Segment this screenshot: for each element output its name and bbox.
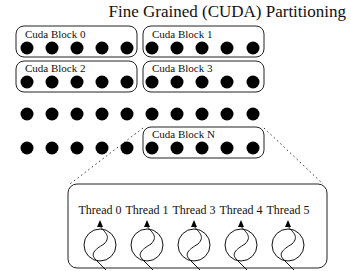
thread-wave-icon <box>281 226 295 270</box>
thread-label: Thread 3 <box>173 203 216 217</box>
block-label: Cuda Block 3 <box>152 62 213 74</box>
thread-dots <box>21 42 260 155</box>
arrow-up-icon <box>285 220 291 227</box>
arrow-up-icon <box>97 220 103 227</box>
cuda-partitioning-diagram: Fine Grained (CUDA) Partitioning Cuda Bl… <box>0 0 351 271</box>
thread-label: Thread 5 <box>267 203 310 217</box>
thread-wave-icon <box>93 226 107 270</box>
thread-1: Thread 1 <box>126 203 169 270</box>
arrow-up-icon <box>144 220 150 227</box>
thread-label: Thread 4 <box>220 203 263 217</box>
thread-label: Thread 0 <box>79 203 122 217</box>
thread-label: Thread 1 <box>126 203 169 217</box>
thread-3: Thread 3 <box>173 203 216 270</box>
block-label: Cuda Block N <box>152 128 215 140</box>
block-label: Cuda Block 2 <box>25 62 86 74</box>
thread-wave-icon <box>187 226 201 270</box>
thread-wave-icon <box>234 226 248 270</box>
arrow-up-icon <box>238 220 244 227</box>
thread-0: Thread 0 <box>79 203 122 270</box>
arrow-up-icon <box>191 220 197 227</box>
thread-4: Thread 4 <box>220 203 263 270</box>
thread-5: Thread 5 <box>267 203 310 270</box>
thread-wave-icon <box>140 226 154 270</box>
diagram-title: Fine Grained (CUDA) Partitioning <box>109 2 347 21</box>
block-label: Cuda Block 1 <box>152 28 213 40</box>
block-label: Cuda Block 0 <box>25 28 86 40</box>
